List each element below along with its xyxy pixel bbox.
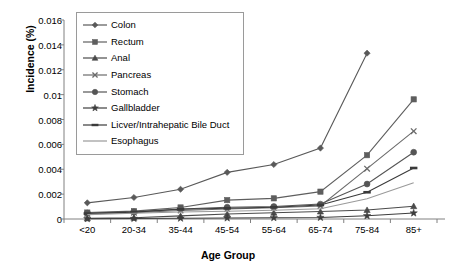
x-axis-tick-label: 45-54 [215,224,239,235]
chart-figure: Incidence (%) Age Group 00.0020.0040.006… [0,0,456,269]
marker-dash [177,208,184,211]
marker-diamond [364,50,370,56]
marker-star [363,212,370,219]
x-axis-tick-label: 75-84 [355,224,379,235]
legend-item[interactable]: Esophagus [82,133,238,150]
marker-cross [411,128,417,134]
marker-dash [92,124,99,126]
marker-star [410,209,417,216]
x-axis-tick-label: <20 [79,224,95,235]
marker-star [92,105,99,111]
legend-item[interactable]: Colon [82,17,238,34]
legend-marker-circle-icon [82,85,108,99]
marker-cross [364,166,370,172]
legend-marker-dash-icon [82,118,108,132]
legend-marker-cross-icon [82,68,108,82]
marker-dash [270,206,277,209]
marker-star [317,214,324,221]
marker-dash [363,191,370,194]
marker-diamond [92,22,98,28]
marker-diamond [271,161,277,167]
marker-square [411,97,416,102]
marker-dash [223,207,230,210]
marker-diamond [131,194,137,200]
legend-label: Anal [111,51,130,65]
marker-diamond [317,145,323,151]
legend-label: Pancreas [111,68,151,82]
chart-legend: ColonRectumAnalPancreasStomachGallbladde… [76,12,244,155]
marker-square [271,196,276,201]
legend-marker-square-icon [82,35,108,49]
legend-marker-triangle-icon [82,51,108,65]
legend-item[interactable]: Gallbladder [82,100,238,117]
legend-item[interactable]: Rectum [82,34,238,51]
marker-diamond [177,186,183,192]
legend-item[interactable]: Licver/Intrahepatic Bile Duct [82,117,238,134]
legend-label: Licver/Intrahepatic Bile Duct [111,118,229,132]
legend-label: Rectum [111,35,144,49]
x-axis-tick-label: 65-74 [308,224,332,235]
legend-label: Esophagus [111,134,159,148]
x-axis-tick-label: 20-34 [122,224,146,235]
marker-square [318,189,323,194]
legend-item[interactable]: Stomach [82,83,238,100]
legend-label: Stomach [111,85,149,99]
legend-marker-diamond-icon [82,18,108,32]
legend-item[interactable]: Anal [82,50,238,67]
x-axis-tick-label: 55-64 [262,224,286,235]
marker-square [225,197,230,202]
marker-square [364,153,369,158]
x-axis-tick-label: 85+ [406,224,422,235]
marker-circle [364,181,370,187]
marker-diamond [224,169,230,175]
series-stomach [84,149,416,216]
marker-dash [410,167,417,170]
legend-item[interactable]: Pancreas [82,67,238,84]
legend-label: Colon [111,18,136,32]
marker-diamond [84,200,90,206]
legend-marker-star-icon [82,101,108,115]
legend-label: Gallbladder [111,101,160,115]
marker-dash [317,204,324,207]
marker-circle [411,149,417,155]
legend-marker-line-icon [82,134,108,148]
x-axis-tick-label: 35-44 [168,224,192,235]
marker-circle [92,89,97,94]
marker-square [93,39,98,44]
